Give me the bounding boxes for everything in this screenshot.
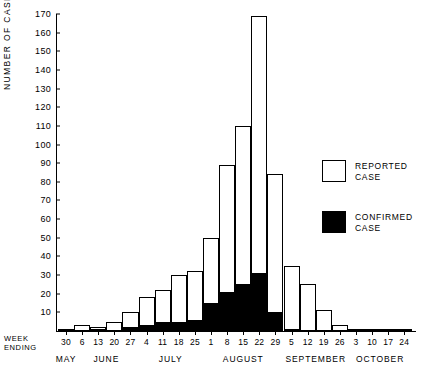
x-tick-mark-10 (227, 331, 228, 335)
week-ending-line2: ENDING (4, 343, 52, 352)
month-label-october: OCTOBER (356, 354, 404, 364)
x-tick-mark-21 (404, 331, 405, 335)
x-tick-label-3: 20 (109, 337, 119, 347)
x-tick-mark-8 (195, 331, 196, 335)
x-tick-label-17: 26 (335, 337, 345, 347)
month-label-september: SEPTEMBER (285, 354, 346, 364)
x-tick-mark-18 (356, 331, 357, 335)
y-tick-mark-60 (56, 219, 60, 220)
legend-label: REPORTEDCASE (355, 160, 408, 183)
y-tick-mark-90 (56, 163, 60, 164)
y-tick-label-50: 50 (3, 233, 56, 243)
y-tick-mark-80 (56, 181, 60, 182)
y-tick-label-110: 110 (3, 121, 56, 131)
legend-item-reported: REPORTEDCASE (322, 160, 413, 183)
y-tick-label-30: 30 (3, 270, 56, 280)
x-axis-line (56, 331, 416, 332)
legend-swatch-filled (322, 211, 346, 233)
month-label-august: AUGUST (223, 354, 264, 364)
legend-swatch-open (322, 160, 346, 182)
y-tick-label-70: 70 (3, 195, 56, 205)
y-tick-mark-160 (56, 32, 60, 33)
x-tick-mark-4 (130, 331, 131, 335)
month-label-july: JULY (159, 354, 183, 364)
y-tick-mark-40 (56, 256, 60, 257)
x-tick-mark-2 (98, 331, 99, 335)
x-tick-label-9: 1 (209, 337, 214, 347)
bar-confirmed-11 (235, 284, 251, 331)
bar-reported-15 (300, 284, 316, 331)
month-label-june: JUNE (93, 354, 119, 364)
y-tick-mark-10 (56, 312, 60, 313)
legend-label-line2: CASE (355, 172, 408, 183)
x-tick-label-12: 22 (254, 337, 264, 347)
week-ending-line1: WEEK (4, 334, 52, 343)
y-tick-label-60: 60 (3, 214, 56, 224)
y-tick-label-100: 100 (3, 140, 56, 150)
bar-confirmed-7 (171, 322, 187, 331)
bar-reported-14 (284, 266, 300, 331)
y-tick-label-150: 150 (3, 46, 56, 56)
y-tick-label-90: 90 (3, 158, 56, 168)
bar-reported-13 (267, 174, 283, 331)
x-tick-mark-7 (179, 331, 180, 335)
x-tick-mark-3 (114, 331, 115, 335)
y-tick-mark-130 (56, 88, 60, 89)
y-tick-label-170: 170 (3, 9, 56, 19)
bar-confirmed-12 (251, 273, 267, 331)
y-tick-label-10: 10 (3, 307, 56, 317)
x-tick-mark-13 (275, 331, 276, 335)
x-tick-mark-15 (308, 331, 309, 335)
x-tick-mark-16 (324, 331, 325, 335)
y-tick-mark-150 (56, 51, 60, 52)
bar-confirmed-8 (187, 320, 203, 331)
x-tick-label-0: 30 (61, 337, 71, 347)
legend-label: CONFIRMEDCASE (355, 211, 413, 234)
legend-label-line2: CASE (355, 223, 413, 234)
x-tick-label-18: 3 (354, 337, 359, 347)
x-tick-label-5: 4 (144, 337, 149, 347)
y-tick-mark-170 (56, 14, 60, 15)
x-tick-label-20: 17 (383, 337, 393, 347)
x-tick-label-13: 29 (271, 337, 281, 347)
bar-confirmed-13 (267, 312, 283, 331)
y-tick-mark-110 (56, 125, 60, 126)
x-tick-label-19: 10 (367, 337, 377, 347)
week-ending-label: WEEK ENDING (4, 334, 52, 352)
y-axis-line (56, 14, 57, 331)
x-tick-mark-6 (163, 331, 164, 335)
x-tick-label-10: 8 (225, 337, 230, 347)
x-tick-mark-9 (211, 331, 212, 335)
bar-confirmed-10 (219, 292, 235, 331)
x-tick-mark-11 (243, 331, 244, 335)
bar-confirmed-9 (203, 303, 219, 331)
y-tick-label-130: 130 (3, 84, 56, 94)
x-tick-label-4: 27 (126, 337, 136, 347)
x-tick-mark-19 (372, 331, 373, 335)
bar-reported-3 (106, 322, 122, 331)
x-tick-label-8: 25 (190, 337, 200, 347)
x-tick-label-6: 11 (158, 337, 167, 347)
x-tick-mark-0 (66, 331, 67, 335)
x-tick-label-2: 13 (93, 337, 103, 347)
y-tick-mark-140 (56, 69, 60, 70)
y-tick-mark-70 (56, 200, 60, 201)
x-tick-mark-17 (340, 331, 341, 335)
x-tick-label-15: 12 (303, 337, 313, 347)
x-tick-label-21: 24 (399, 337, 409, 347)
y-tick-label-120: 120 (3, 102, 56, 112)
x-tick-mark-5 (147, 331, 148, 335)
y-tick-label-20: 20 (3, 289, 56, 299)
y-tick-mark-120 (56, 107, 60, 108)
legend: REPORTEDCASECONFIRMEDCASE (322, 160, 413, 262)
x-tick-label-1: 6 (80, 337, 85, 347)
month-label-may: MAY (56, 354, 77, 364)
y-tick-mark-100 (56, 144, 60, 145)
x-tick-label-16: 19 (319, 337, 329, 347)
x-tick-mark-20 (388, 331, 389, 335)
x-tick-mark-12 (259, 331, 260, 335)
x-tick-label-14: 5 (289, 337, 294, 347)
y-tick-label-160: 160 (3, 28, 56, 38)
epidemic-curve-chart: NUMBER OF CASES WEEK ENDING 102030405060… (0, 0, 430, 377)
x-tick-mark-1 (82, 331, 83, 335)
